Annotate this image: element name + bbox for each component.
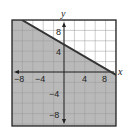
y-axis-label: y [60, 8, 66, 19]
x-axis-label: x [117, 66, 123, 77]
y-tick-label: 4 [56, 47, 61, 57]
y-tick-label: −4 [49, 89, 59, 99]
x-tick-label: −4 [35, 74, 45, 84]
y-tick-label: −8 [49, 110, 59, 120]
x-tick-label: 4 [82, 74, 87, 84]
inequality-graph: y x −8 −4 4 8 8 4 −4 −8 [0, 0, 130, 138]
y-tick-label: 8 [56, 27, 61, 37]
x-tick-label: −8 [14, 74, 24, 84]
x-tick-label: 8 [102, 74, 107, 84]
